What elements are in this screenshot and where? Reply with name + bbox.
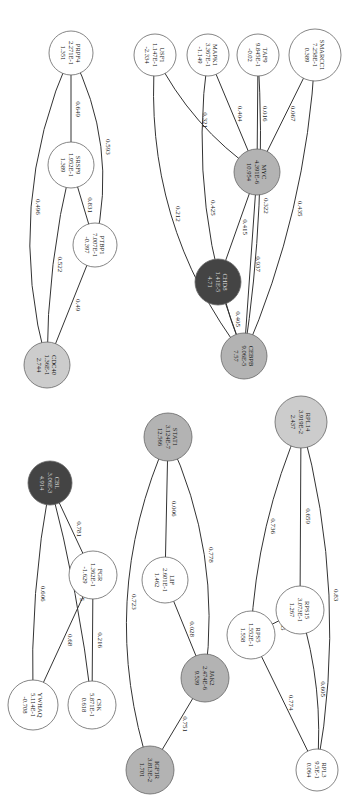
network-diagram: 0.6490.5930.4960.8310.5220.490.3210.2120… (0, 0, 361, 812)
node-pvalue-label: 9.845E-1 (255, 43, 262, 67)
node-name-label: PRPF4 (75, 44, 82, 63)
node-score-label: -1.629 (82, 567, 89, 584)
node-name-label: USF1 (159, 47, 166, 62)
node-score-label: 10.954 (246, 163, 253, 182)
edge-weight-label: 0.321 (201, 112, 209, 128)
node-score-label: 1.462 (154, 573, 161, 588)
node-srsf9[interactable]: SRSF91.952E-11.389 (48, 142, 94, 188)
node-pvalue-label: 3.367E-1 (205, 43, 212, 67)
node-ptbp1[interactable]: PTBP17.007E-1-0.397 (73, 223, 117, 267)
node-pvalue-label: 4.391E-6 (254, 160, 261, 185)
node-score-label: 9.539 (194, 671, 201, 686)
node-layer: PRPF42.271E-11.351SRSF91.952E-11.389PTBP… (8, 29, 341, 794)
node-pvalue-label: 3.813E-2 (147, 758, 154, 782)
node-stat1[interactable]: STAT13.124E-712.566 (144, 413, 192, 461)
node-pvalue-label: 1.41E-5 (215, 272, 222, 293)
node-myc[interactable]: MYC4.391E-610.954 (234, 149, 280, 195)
node-rpl14[interactable]: RPL143.919E-22.437 (275, 396, 327, 448)
node-ywhaq[interactable]: YWHAQ5.114E-1-0.708 (8, 680, 58, 730)
node-fgr[interactable]: FGR1.362E-1-1.629 (69, 551, 117, 599)
edge-weight-label: 0.606 (39, 586, 47, 602)
edge-weight-label: 0.496 (34, 199, 42, 215)
node-pvalue-label: 3.124E-7 (165, 425, 172, 450)
node-rpl3[interactable]: RPL39.5E-10.064 (296, 749, 338, 791)
node-score-label: 4.914 (39, 476, 46, 491)
node-pvalue-label: 1.552E-1 (248, 623, 255, 647)
node-cdc40[interactable]: CDC401.36E-12.744 (24, 342, 70, 388)
edge-weight-label: 0.216 (96, 632, 104, 648)
edge-weight-label: 0.751 (181, 716, 189, 732)
node-pvalue-label: 1.36E-1 (44, 355, 51, 376)
node-score-label: 2.744 (36, 358, 43, 373)
node-pvalue-label: 9.06E-5 (241, 346, 248, 367)
node-igf1r[interactable]: IGF1R3.813E-21.701 (126, 746, 174, 794)
node-name-label: RPS5 (255, 628, 262, 643)
node-name-label: RPL14 (305, 413, 312, 432)
edge-weight-label: 0.723 (130, 594, 138, 610)
node-pvalue-label: 9.5E-1 (314, 761, 321, 779)
node-score-label: 0.618 (81, 698, 88, 713)
node-rps5[interactable]: RPS51.552E-11.558 (227, 611, 275, 659)
node-cebpb[interactable]: CEBPB9.06E-57.57 (221, 333, 267, 379)
edge-weight-label: 0.322 (262, 198, 270, 214)
node-name-label: FGR (97, 569, 104, 582)
node-pvalue-label: 2.474E-6 (202, 666, 209, 691)
edge-stat1-jak2 (168, 437, 209, 678)
node-pvalue-label: 1.147E-1 (152, 43, 159, 67)
node-pvalue-label: 7.007E-1 (92, 233, 99, 257)
node-pvalue-label: 2.271E-1 (68, 41, 75, 65)
edge-weight-label: 0.405 (234, 311, 242, 327)
node-name-label: YWHAQ (37, 693, 44, 718)
edge-weight-label: 0.49 (74, 299, 82, 312)
node-name-label: PTBP1 (99, 236, 106, 255)
node-score-label: 1.267 (289, 603, 296, 618)
edge-weight-label: 0.212 (174, 206, 182, 222)
node-csk[interactable]: CSK5.871E-10.618 (68, 681, 116, 729)
node-pvalue-label: 2.601E-1 (162, 568, 169, 592)
node-jak2[interactable]: JAK22.474E-69.539 (181, 654, 229, 702)
node-pvalue-label: 1.952E-1 (68, 153, 75, 177)
node-cbl[interactable]: CBL3.06E-34.914 (28, 461, 72, 505)
node-score-label: 1.351 (60, 46, 67, 61)
node-name-label: SMARCC1 (319, 40, 326, 70)
node-smarcc1[interactable]: SMARCC17.258E-10.389 (289, 29, 341, 81)
node-lif[interactable]: LIF2.601E-11.462 (142, 557, 188, 603)
node-name-label: MAPK1 (212, 44, 219, 66)
edge-rpl14-rps15 (300, 422, 301, 610)
edge-weight-label: 0.028 (188, 621, 196, 637)
node-name-label: TAF9 (262, 47, 269, 62)
node-usf1[interactable]: USF11.147E-1-2.334 (134, 34, 176, 76)
node-score-label: -1.149 (197, 47, 204, 64)
node-score-label: 1.389 (60, 158, 67, 173)
edge-weight-label: 0.404 (236, 106, 244, 122)
node-score-label: 2.437 (290, 415, 297, 430)
node-name-label: CEBPB (248, 346, 255, 367)
node-score-label: -0.02 (247, 48, 254, 62)
node-score-label: 0.064 (306, 763, 313, 778)
edge-weight-label: 0.435 (296, 201, 304, 217)
node-pvalue-label: 7.258E-1 (312, 43, 319, 67)
node-name-label: SRSF9 (75, 156, 82, 174)
node-score-label: 7.57 (233, 350, 240, 362)
node-name-label: STAT1 (172, 428, 179, 446)
node-rps15[interactable]: RPS153.073E-11.267 (276, 586, 324, 634)
node-mapk1[interactable]: MAPK13.367E-1-1.149 (187, 34, 229, 76)
node-name-label: RPS15 (304, 601, 311, 619)
node-chd8[interactable]: CHD81.41E-54.71 (195, 259, 241, 305)
edge-weight-label: 0.68 (66, 634, 74, 647)
node-score-label: 1.558 (240, 628, 247, 643)
node-pvalue-label: 5.871E-1 (89, 693, 96, 717)
node-score-label: 12.566 (157, 428, 164, 447)
node-prpf4[interactable]: PRPF42.271E-11.351 (49, 31, 93, 75)
node-score-label: 1.701 (139, 763, 146, 778)
edge-weight-label: 0.659 (304, 508, 312, 524)
node-pvalue-label: 5.114E-1 (30, 693, 37, 717)
node-score-label: -0.708 (22, 697, 29, 714)
node-name-label: MYC (261, 165, 268, 180)
edge-usf1-cebpb (154, 55, 244, 356)
node-score-label: 4.71 (207, 276, 214, 287)
node-name-label: CDC40 (51, 355, 58, 375)
edge-weight-label: 0.415 (241, 219, 249, 235)
node-taf9[interactable]: TAF99.845E-1-0.02 (237, 34, 279, 76)
edge-weight-label: 0.937 (254, 256, 262, 272)
